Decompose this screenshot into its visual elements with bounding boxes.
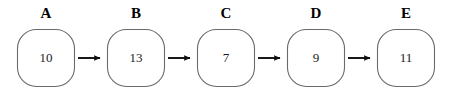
node-value-a: 10 [17,50,75,66]
linked-list-diagram: A B C D E 10 13 7 9 11 [0,0,452,95]
node-label-d: D [286,4,346,22]
node-value-e: 11 [377,50,435,66]
node-value-b: 13 [107,50,165,66]
node-label-b: B [106,4,166,22]
node-label-e: E [376,4,436,22]
node-value-d: 9 [287,50,345,66]
node-label-a: A [16,4,76,22]
node-value-c: 7 [197,50,255,66]
node-label-c: C [196,4,256,22]
